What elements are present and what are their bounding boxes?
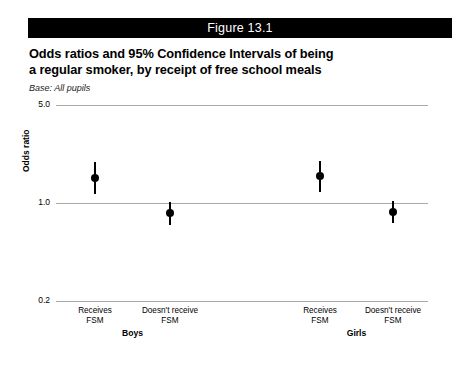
odds-ratio-marker [91,174,99,182]
x-tick-label-line-1: Doesn't receive [125,306,215,316]
chart-title: Odds ratios and 95% Confidence Intervals… [29,46,429,77]
gridline-5.0 [56,105,428,106]
plot-area [56,105,428,301]
figure-header-bar: Figure 13.1 [28,18,452,38]
y-tick-label: 0.2 [20,296,50,305]
odds-ratio-marker [316,172,324,180]
odds-ratio-marker [166,209,174,217]
x-tick-label: Doesn't receiveFSM [125,306,215,325]
x-axis-group-label: Girls [272,328,442,338]
figure-number-label: Figure 13.1 [28,18,452,38]
chart-title-line-2: a regular smoker, by receipt of free sch… [29,62,429,78]
gridline-0.2 [56,301,428,302]
x-tick-label: Doesn't receiveFSM [348,306,438,325]
chart-title-line-1: Odds ratios and 95% Confidence Intervals… [29,46,429,62]
figure-container: Figure 13.1 Odds ratios and 95% Confiden… [0,0,463,365]
y-axis-title: Odds ratio [21,129,31,172]
x-tick-label-line-1: Doesn't receive [348,306,438,316]
y-tick-label: 5.0 [20,100,50,109]
x-tick-label-line-2: FSM [125,316,215,326]
x-axis-group-label: Boys [48,328,218,338]
chart-base-note: Base: All pupils [29,83,90,93]
odds-ratio-marker [389,208,397,216]
y-tick-label: 1.0 [20,198,50,207]
x-tick-label-line-2: FSM [348,316,438,326]
gridline-1.0 [56,203,428,204]
